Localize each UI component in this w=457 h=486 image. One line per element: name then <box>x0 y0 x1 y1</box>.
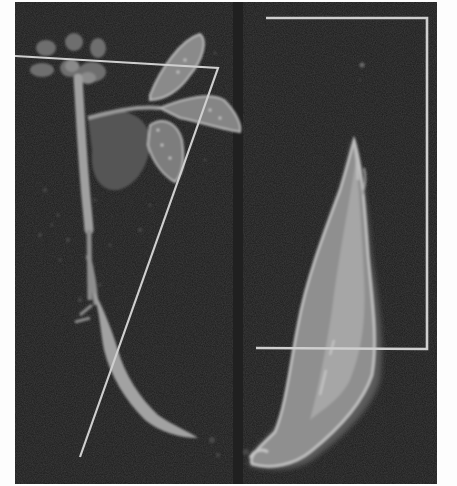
figure: Grayscale micrograph-style image on blac… <box>0 0 457 486</box>
plant-image <box>0 0 457 486</box>
